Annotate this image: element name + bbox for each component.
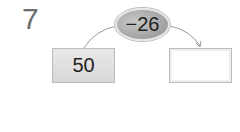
operation-oval: −26 — [115, 8, 170, 41]
answer-box[interactable] — [169, 48, 232, 83]
start-value-box: 50 — [52, 48, 115, 83]
